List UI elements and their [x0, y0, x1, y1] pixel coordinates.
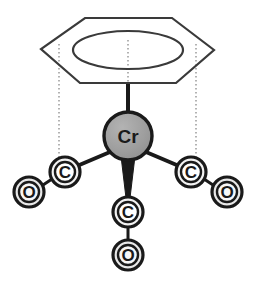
- carbon-right-label: C: [185, 163, 197, 182]
- atom-oxygen-left: O: [14, 177, 44, 207]
- atom-oxygen-front: O: [113, 240, 143, 270]
- atom-carbon-front: C: [113, 197, 143, 227]
- carbon-front-label: C: [122, 203, 134, 222]
- atom-oxygen-right: O: [212, 177, 242, 207]
- aromatic-ellipse-icon: [73, 31, 183, 69]
- atom-carbon-left: C: [50, 157, 80, 187]
- oxygen-right-label: O: [220, 183, 233, 202]
- oxygen-left-label: O: [22, 183, 35, 202]
- bond-chromium-to-carbon-right: [146, 152, 179, 166]
- oxygen-front-label: O: [121, 246, 134, 265]
- chemical-structure-figure: O C O C O: [0, 0, 258, 283]
- atom-chromium: Cr: [104, 112, 152, 160]
- bond-chromium-to-carbon-left: [77, 152, 110, 166]
- atom-carbon-right: C: [176, 157, 206, 187]
- wedge-bond-chromium-to-carbon-front: [121, 156, 135, 198]
- structure-canvas: O C O C O: [0, 0, 258, 283]
- carbon-left-label: C: [59, 163, 71, 182]
- chromium-label: Cr: [117, 126, 139, 147]
